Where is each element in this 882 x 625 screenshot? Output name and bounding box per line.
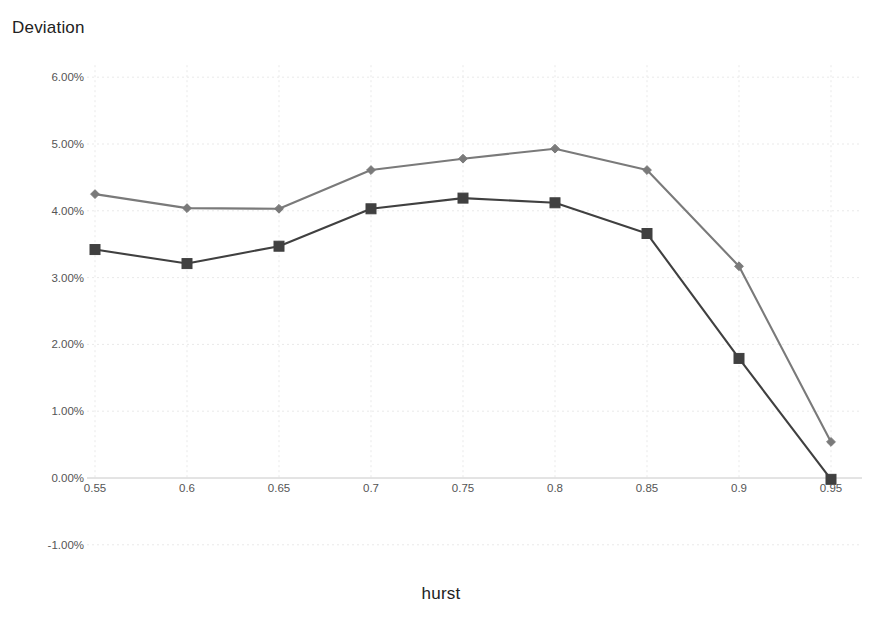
data-point-marker-square [366, 204, 376, 214]
data-point-marker-diamond [551, 144, 560, 153]
data-point-marker-diamond [367, 166, 376, 175]
data-point-marker-square [734, 353, 744, 363]
x-axis-tick-label: 0.65 [268, 482, 290, 494]
x-axis-tick-label: 0.8 [547, 482, 563, 494]
data-point-marker-square [90, 245, 100, 255]
data-point-marker-diamond [275, 204, 284, 213]
data-point-marker-square [642, 229, 652, 239]
x-axis-tick-label: 0.6 [179, 482, 195, 494]
x-axis-tick-label: 0.55 [84, 482, 106, 494]
data-point-marker-square [550, 198, 560, 208]
data-point-marker-diamond [91, 190, 100, 199]
data-point-marker-diamond [459, 154, 468, 163]
x-axis-tick-label: 0.75 [452, 482, 474, 494]
x-axis-tick-label: 0.95 [820, 482, 842, 494]
data-point-marker-square [274, 241, 284, 251]
chart-container: Deviation 6.00%5.00%4.00%3.00%2.00%1.00%… [0, 0, 882, 625]
x-axis-title: hurst [0, 584, 882, 604]
x-axis-tick-label: 0.85 [636, 482, 658, 494]
plot-area [0, 0, 882, 625]
x-axis-tick-label: 0.7 [363, 482, 379, 494]
x-axis-tick-label: 0.9 [731, 482, 747, 494]
data-point-marker-square [458, 193, 468, 203]
data-point-marker-square [182, 259, 192, 269]
data-point-marker-diamond [827, 438, 836, 447]
